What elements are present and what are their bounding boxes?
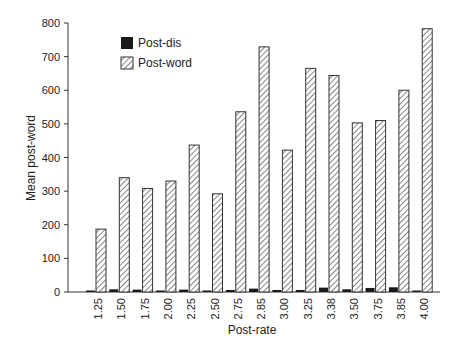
bar-group (179, 145, 199, 292)
y-tick-label: 700 (42, 51, 60, 63)
bar-post-word (166, 181, 176, 292)
bar-post-dis (156, 291, 165, 293)
y-tick-label: 0 (54, 286, 60, 298)
x-tick-label: 2.75 (232, 298, 244, 319)
x-tick-label: 4.00 (418, 298, 430, 319)
bar-post-word (236, 112, 246, 292)
bar-post-word (119, 178, 129, 292)
bar-post-word (399, 90, 409, 292)
bar-post-dis (249, 289, 258, 292)
bar-post-word (143, 188, 153, 292)
bar-group (156, 181, 176, 292)
bar-group (272, 150, 292, 292)
bar-post-dis (366, 288, 375, 292)
x-tick-label: 1.25 (92, 298, 104, 319)
x-tick-label: 3.25 (302, 298, 314, 319)
bar-post-word (352, 123, 362, 292)
y-tick-label: 500 (42, 118, 60, 130)
y-tick-label: 400 (42, 152, 60, 164)
y-tick-label: 800 (42, 17, 60, 29)
bar-post-word (282, 150, 292, 292)
bar-post-dis (179, 290, 188, 292)
legend: Post-dis Post-word (121, 36, 192, 70)
bar-post-dis (133, 290, 142, 292)
x-tick-label: 3.00 (278, 298, 290, 319)
x-tick-label: 3.85 (395, 298, 407, 319)
bar-post-word (422, 29, 432, 292)
x-tick-label: 1.50 (115, 298, 127, 319)
bar-post-word (376, 121, 386, 292)
bar-post-dis (412, 291, 421, 293)
y-tick-label: 200 (42, 219, 60, 231)
x-tick-label: 3.75 (372, 298, 384, 319)
bar-group (296, 68, 316, 292)
bar-group (133, 188, 153, 292)
x-tick-label: 1.75 (139, 298, 151, 319)
bar-post-word (306, 68, 316, 292)
y-tick-label: 300 (42, 185, 60, 197)
bar-post-word (259, 47, 269, 292)
bar-group (249, 47, 269, 292)
bar-group (412, 29, 432, 292)
bar-post-dis (272, 290, 281, 292)
bar-post-word (329, 75, 339, 292)
bar-post-dis (342, 289, 351, 292)
x-tick-label: 2.25 (185, 298, 197, 319)
bar-post-word (213, 194, 223, 292)
bar-group (319, 75, 339, 292)
y-axis: 0100200300400500600700800 (42, 17, 68, 298)
bar-post-dis (319, 288, 328, 292)
bar-group (109, 178, 129, 292)
bar-post-word (96, 229, 106, 292)
x-tick-label: 3.50 (348, 298, 360, 319)
legend-swatch-post-word (121, 57, 133, 69)
x-tick-label: 2.50 (209, 298, 221, 319)
bar-post-dis (203, 291, 212, 293)
x-tick-label: 3.38 (325, 298, 337, 319)
legend-label-post-dis: Post-dis (138, 36, 181, 50)
x-axis-title: Post-rate (228, 323, 277, 337)
y-axis-title: Mean post-word (24, 115, 38, 201)
bar-post-dis (226, 290, 235, 292)
bar-group (203, 194, 223, 292)
bar-chart: 0100200300400500600700800 1.251.501.752.… (0, 0, 465, 353)
legend-swatch-post-dis (121, 37, 133, 49)
bar-post-dis (389, 287, 398, 292)
bar-post-word (189, 145, 199, 292)
bar-group (86, 229, 106, 292)
bar-group (389, 90, 409, 292)
bar-group (366, 121, 386, 292)
bar-post-dis (109, 289, 118, 292)
bar-post-dis (296, 290, 305, 292)
x-axis: 1.251.501.752.002.252.502.752.853.003.25… (68, 292, 440, 319)
bar-post-dis (86, 291, 95, 293)
x-tick-label: 2.85 (255, 298, 267, 319)
bar-group (342, 123, 362, 292)
legend-label-post-word: Post-word (138, 56, 192, 70)
y-tick-label: 600 (42, 84, 60, 96)
y-tick-label: 100 (42, 252, 60, 264)
bar-group (226, 112, 246, 292)
x-tick-label: 2.00 (162, 298, 174, 319)
